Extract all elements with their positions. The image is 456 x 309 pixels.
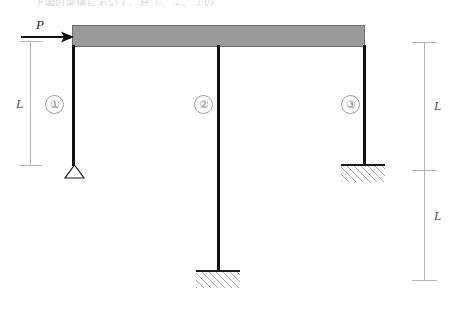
load-arrow-icon — [20, 28, 76, 46]
member-label-1: ① — [45, 95, 64, 114]
load-label: P — [36, 17, 44, 33]
fixed-support-3 — [341, 164, 385, 182]
hatch-block — [196, 272, 240, 288]
member-label-2: ② — [194, 95, 213, 114]
dim-left-line — [30, 41, 31, 166]
member-label-3: ③ — [341, 95, 360, 114]
column-1 — [72, 45, 75, 166]
dim-right-line-lower — [424, 170, 425, 280]
dim-right-tick-bottom — [412, 280, 437, 281]
column-3 — [363, 45, 366, 166]
fixed-support-2 — [196, 270, 240, 288]
rigid-beam — [72, 25, 365, 47]
dim-right-label-lower: L — [434, 208, 441, 224]
structural-frame-diagram: 下図の架構において、柱①、②、③の ① ② ③ P L L — [0, 0, 456, 309]
dim-right-line-upper — [424, 42, 425, 170]
column-2 — [217, 45, 220, 272]
hatch-block — [341, 166, 385, 182]
dim-right-label-upper: L — [434, 98, 441, 114]
pin-support-icon — [64, 164, 85, 183]
dim-left-tick-bottom — [19, 165, 42, 166]
header-text: 下図の架構において、柱①、②、③の — [34, 0, 304, 6]
dim-left-label: L — [16, 96, 23, 112]
